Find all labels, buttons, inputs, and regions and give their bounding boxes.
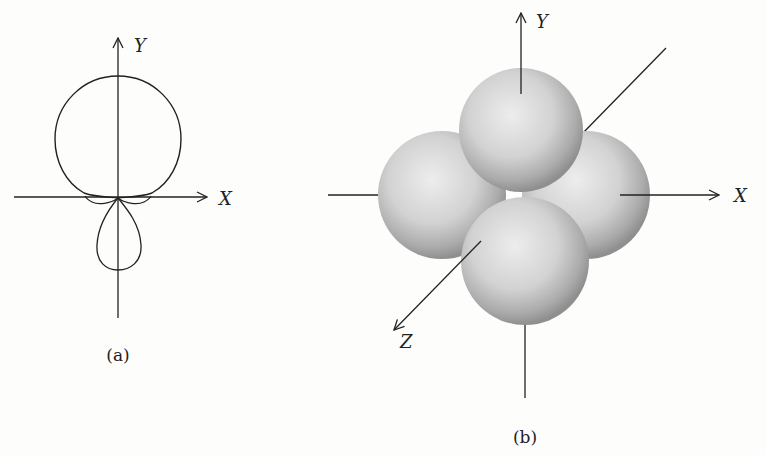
y-axis-label-a: Y (134, 35, 148, 56)
x-axis-label-b: X (732, 185, 748, 206)
panel-a: Y X (a) (14, 35, 233, 365)
sphere-bottom (461, 197, 589, 325)
x-axis-label-a: X (217, 188, 233, 209)
diagonal-axis-back-b (580, 48, 666, 136)
orbital-figure: Y X (a) Y X Z (b) (0, 0, 766, 455)
lower-lobe (97, 198, 141, 270)
panel-b: Y X Z (b) (328, 11, 748, 447)
caption-b: (b) (513, 427, 537, 447)
z-axis-label-b: Z (399, 331, 413, 352)
caption-a: (a) (106, 345, 129, 365)
y-axis-label-b: Y (536, 11, 550, 32)
